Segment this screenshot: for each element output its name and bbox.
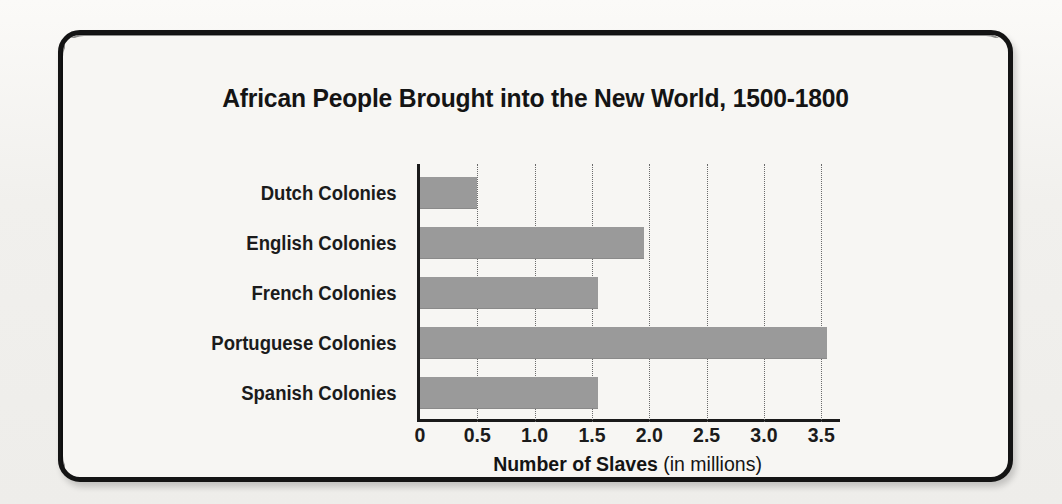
bar-row	[420, 318, 835, 368]
bar	[420, 227, 644, 259]
bar	[420, 277, 598, 309]
x-tick-label: 3.5	[808, 424, 835, 447]
x-tick-label: 0.5	[464, 424, 491, 447]
category-label: French Colonies	[80, 268, 408, 318]
chart-frame: African People Brought into the New Worl…	[58, 30, 1013, 482]
bar-row	[420, 218, 835, 268]
x-axis-title-bold: Number of Slaves	[493, 453, 658, 475]
x-axis-tick-labels: 00.51.01.52.02.53.03.5	[420, 424, 835, 450]
bar-rows	[420, 168, 835, 418]
x-tick-label: 2.0	[636, 424, 663, 447]
x-tick-label: 2.5	[693, 424, 720, 447]
plot-area: Dutch ColoniesEnglish ColoniesFrench Col…	[63, 35, 1008, 477]
bar	[420, 327, 827, 359]
page-canvas: African People Brought into the New Worl…	[0, 0, 1062, 504]
x-axis-title-unit: (in millions)	[658, 453, 762, 475]
x-tick-label: 0	[415, 424, 426, 447]
bar-row	[420, 368, 835, 418]
bar	[420, 177, 477, 209]
category-label: English Colonies	[80, 218, 408, 268]
bar-row	[420, 268, 835, 318]
category-label: Dutch Colonies	[80, 168, 408, 218]
category-axis-labels: Dutch ColoniesEnglish ColoniesFrench Col…	[63, 168, 408, 418]
bars-and-grid	[420, 168, 835, 418]
category-label: Portuguese Colonies	[80, 318, 408, 368]
x-axis-title: Number of Slaves (in millions)	[420, 453, 835, 476]
x-tick-label: 1.5	[578, 424, 605, 447]
category-label: Spanish Colonies	[80, 368, 408, 418]
x-tick-label: 3.0	[750, 424, 777, 447]
bar-row	[420, 168, 835, 218]
x-axis-line	[417, 419, 840, 422]
x-tick-label: 1.0	[521, 424, 548, 447]
bar	[420, 377, 598, 409]
